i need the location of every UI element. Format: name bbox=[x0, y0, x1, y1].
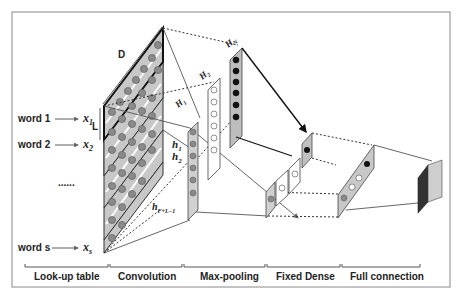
hlast-unit-label: hF+L−1 bbox=[152, 201, 175, 214]
svg-text:x2: x2 bbox=[82, 137, 93, 153]
h1-map-label: H1 bbox=[172, 96, 188, 112]
feature-map-h1 bbox=[188, 122, 198, 220]
output-layer bbox=[418, 160, 442, 213]
svg-text:word 1: word 1 bbox=[17, 113, 51, 124]
stage-label-convolution: Convolution bbox=[118, 271, 176, 282]
stage-brackets bbox=[25, 264, 420, 267]
d-label: D bbox=[118, 49, 125, 60]
feature-map-h2 bbox=[208, 78, 220, 180]
input-word-2: word 2 x2 bbox=[17, 137, 93, 153]
ellipsis-words: ...... bbox=[58, 177, 75, 188]
input-word-1: word 1 x1 bbox=[17, 111, 93, 127]
diagram-canvas: D L word 1 x1 word 2 x2 ...... word s xs bbox=[0, 0, 459, 299]
dense-vector bbox=[338, 145, 374, 218]
stage-label-full-connection: Full connection bbox=[350, 271, 424, 282]
cnn-architecture-diagram: D L word 1 x1 word 2 x2 ...... word s xs bbox=[0, 0, 459, 299]
maxpool-arrow-h2 bbox=[236, 137, 292, 156]
stage-label-lookup: Look-up table bbox=[34, 271, 100, 282]
hn-map-label: HN bbox=[222, 34, 239, 51]
h2-map-label: H2 bbox=[196, 68, 212, 84]
maxpool-arrow-hn bbox=[242, 48, 306, 132]
svg-text:word 2: word 2 bbox=[17, 139, 51, 150]
figure-frame bbox=[12, 12, 450, 287]
embedding-matrix bbox=[100, 27, 163, 253]
svg-text:x1: x1 bbox=[82, 111, 93, 127]
stage-label-maxpooling: Max-pooling bbox=[200, 271, 259, 282]
input-word-s: word s xs bbox=[17, 240, 92, 256]
stage-label-fixed-dense: Fixed Dense bbox=[276, 271, 335, 282]
feature-map-hn bbox=[230, 48, 242, 148]
svg-text:xs: xs bbox=[82, 240, 92, 256]
svg-text:word s: word s bbox=[17, 242, 51, 253]
